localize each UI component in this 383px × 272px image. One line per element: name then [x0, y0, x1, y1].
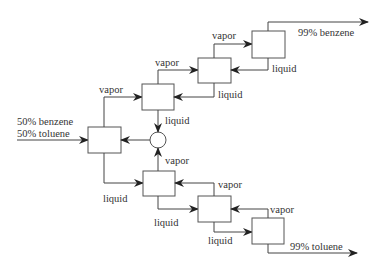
vapor-lower2-to-lower1	[175, 183, 214, 196]
benzene-output-label: 99% benzene	[298, 27, 355, 38]
upper-stage-2-box	[198, 58, 231, 83]
liquid-upper3-to-upper2	[231, 58, 268, 70]
upper-stage-3-box	[252, 31, 285, 58]
vapor-label-3: vapor	[212, 30, 236, 41]
feed-stage-box	[88, 127, 121, 153]
vapor-label-4: vapor	[165, 155, 189, 166]
vapor-label-6: vapor	[270, 204, 294, 215]
vapor-label-1: vapor	[99, 84, 123, 95]
liquid-label-2: liquid	[165, 115, 190, 126]
mixer-circle	[150, 132, 166, 148]
liquid-label-4: liquid	[272, 63, 297, 74]
vapor-upper1-to-upper2	[158, 70, 198, 84]
feed-label-toluene: 50% toluene	[17, 128, 70, 139]
liquid-label-3: liquid	[218, 89, 243, 100]
vapor-stream-feed-to-upper1	[104, 97, 142, 127]
vapor-label-5: vapor	[218, 179, 242, 190]
lower-stage-2-box	[198, 196, 231, 222]
vapor-lower3-to-lower2	[231, 209, 268, 218]
liquid-label-1: liquid	[103, 193, 128, 204]
upper-stage-1-box	[142, 84, 174, 110]
lower-stage-1-box	[143, 171, 175, 196]
toluene-output-label: 99% toluene	[290, 241, 343, 252]
feed-label-benzene: 50% benzene	[17, 116, 74, 127]
vapor-upper2-to-upper3	[214, 44, 252, 58]
lower-stage-3-box	[252, 218, 284, 244]
liquid-stream-feed-to-lower1	[104, 153, 143, 183]
flow-diagram: 50% benzene 50% toluene vapor liquid liq…	[0, 0, 383, 272]
vapor-label-2: vapor	[155, 57, 179, 68]
liquid-label-5: liquid	[154, 217, 179, 228]
liquid-lower1-to-lower2	[158, 196, 198, 209]
liquid-label-6: liquid	[208, 235, 233, 246]
liquid-upper2-to-upper1	[174, 83, 214, 97]
liquid-lower2-to-lower3	[214, 222, 252, 232]
